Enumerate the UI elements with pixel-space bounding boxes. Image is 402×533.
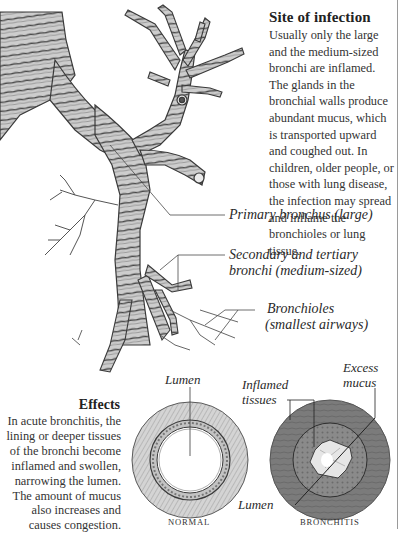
site-of-infection-body: Usually only the large and the medium-si… <box>269 27 395 259</box>
label-bronchioles-line1: Bronchioles <box>267 300 334 317</box>
normal-lumen-label: Lumen <box>165 371 200 388</box>
label-primary-bronchus: Primary bronchus (large) <box>229 206 373 223</box>
inflamed-tissues-label-line2: tissues <box>242 392 277 407</box>
excess-mucus-label-line2: mucus <box>343 375 376 390</box>
bronchiole-branches-left <box>45 175 118 255</box>
label-secondary-tertiary-line1: Secondary and tertiary <box>229 246 358 263</box>
bronchitis-lumen-label: Lumen <box>238 496 273 513</box>
label-bronchioles-line2: (smallest airways) <box>265 316 368 333</box>
effects-title: Effects <box>79 397 120 413</box>
page-edge-rule <box>397 0 398 529</box>
inflamed-tissues-label-line1: Inflamed <box>242 377 288 392</box>
site-of-infection-title: Site of infection <box>269 9 371 26</box>
bronchitis-cross-section <box>270 388 390 520</box>
normal-cross-section <box>132 387 248 518</box>
bronchitis-caption: BRONCHITIS <box>300 517 360 527</box>
label-secondary-tertiary-line2: bronchi (medium-sized) <box>229 262 362 279</box>
effects-body: In acute bronchitis, the lining or deepe… <box>4 414 121 533</box>
excess-mucus-label-line1: Excess <box>343 360 378 375</box>
normal-caption: NORMAL <box>168 517 210 527</box>
